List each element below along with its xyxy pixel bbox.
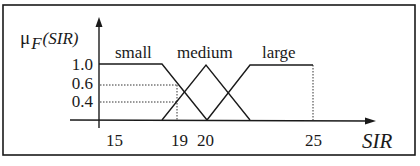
- y-tick-0-6: 0.6: [72, 74, 93, 93]
- label-large: large: [262, 43, 296, 62]
- curve-large: [207, 65, 313, 120]
- label-small: small: [115, 43, 152, 62]
- y-tick-1-0: 1.0: [72, 55, 93, 74]
- x-tick-20: 20: [197, 131, 214, 150]
- x-axis: [70, 120, 368, 121]
- y-tick-0-4: 0.4: [72, 92, 94, 111]
- x-axis-arrow-icon: [365, 118, 376, 125]
- y-axis-title: μF(SIR): [20, 27, 79, 53]
- x-tick-15: 15: [106, 131, 123, 150]
- membership-function-diagram: μF(SIR) 1.0 0.6 0.4 small medium large 1…: [0, 0, 420, 166]
- x-tick-19: 19: [171, 131, 188, 150]
- x-tick-25: 25: [305, 131, 322, 150]
- curve-medium: [162, 65, 250, 120]
- label-medium: medium: [177, 43, 233, 62]
- curve-small: [99, 64, 207, 120]
- y-axis-arrow-icon: [96, 17, 103, 27]
- x-axis-title: SIR: [362, 129, 392, 153]
